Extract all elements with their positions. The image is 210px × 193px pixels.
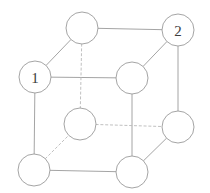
node-front-bottom-left: [18, 154, 50, 186]
edge-front-top-left-to-back-top-left: [46, 40, 71, 66]
edge-front-top-left-to-front-bottom-left: [34, 93, 35, 154]
edge-front-top-left-to-front-top-right: [51, 77, 116, 78]
node-back-bottom-right: [162, 111, 194, 143]
node-front-bottom-right: [116, 156, 148, 188]
node-circle-front-bottom-right: [116, 156, 148, 188]
node-circle-back-top-left: [66, 12, 98, 44]
node-circle-back-bottom-right: [162, 111, 194, 143]
edge-back-top-left-to-back-bottom-left: [80, 44, 81, 108]
node-layer: 21: [18, 12, 194, 188]
node-front-top-left: 1: [19, 61, 51, 93]
edge-back-top-left-to-back-top-right: [98, 28, 162, 29]
node-back-top-left: [66, 12, 98, 44]
edge-front-bottom-left-to-front-bottom-right: [50, 170, 116, 171]
edge-layer: [34, 28, 178, 171]
node-back-bottom-left: [64, 108, 96, 140]
edge-front-bottom-left-to-back-bottom-left: [45, 135, 68, 158]
edge-back-bottom-left-to-back-bottom-right: [96, 124, 162, 126]
edge-front-top-right-to-back-top-right: [143, 42, 167, 67]
cube-graph-canvas: 21: [0, 0, 210, 193]
node-circle-front-bottom-left: [18, 154, 50, 186]
node-back-top-right: 2: [162, 14, 194, 46]
node-circle-front-top-left: [19, 61, 51, 93]
node-circle-back-top-right: [162, 14, 194, 46]
node-circle-front-top-right: [116, 62, 148, 94]
cube-graph-figure: 21: [0, 0, 210, 193]
node-front-top-right: [116, 62, 148, 94]
node-circle-back-bottom-left: [64, 108, 96, 140]
edge-front-bottom-right-to-back-bottom-right: [143, 138, 166, 161]
